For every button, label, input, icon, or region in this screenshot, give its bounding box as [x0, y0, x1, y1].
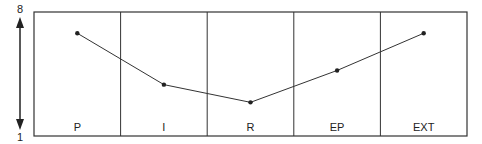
- data-line: [77, 33, 423, 102]
- plot-frame: [34, 12, 467, 136]
- data-point: [162, 82, 166, 86]
- data-point: [422, 31, 426, 35]
- category-label: R: [247, 121, 255, 133]
- category-dividers: [121, 12, 381, 136]
- category-label: P: [74, 121, 81, 133]
- data-points: [75, 31, 426, 104]
- data-point: [248, 100, 252, 104]
- arrow-up-icon: [16, 17, 24, 28]
- y-axis-bottom-label: 1: [17, 131, 23, 143]
- category-label: EXT: [413, 121, 435, 133]
- data-point: [75, 31, 79, 35]
- y-axis-top-label: 8: [17, 3, 23, 15]
- data-point: [335, 68, 339, 72]
- arrow-down-icon: [16, 119, 24, 130]
- category-label: EP: [330, 121, 345, 133]
- chart: 8 1 PIREPEXT: [0, 0, 482, 144]
- y-axis: 8 1: [16, 3, 24, 143]
- category-label: I: [162, 121, 165, 133]
